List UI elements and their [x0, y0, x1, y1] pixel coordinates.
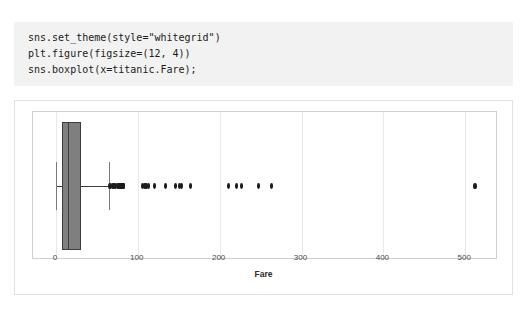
x-tick-label: 200	[212, 253, 225, 262]
plot-output-card: 0100200300400500 Fare	[14, 100, 513, 295]
code-line: plt.figure(figsize=(12, 4))	[28, 46, 513, 62]
outlier-point	[235, 183, 238, 188]
code-line: sns.boxplot(x=titanic.Fare);	[28, 62, 513, 78]
x-tick-label: 100	[130, 253, 143, 262]
x-tick-label: 0	[53, 253, 57, 262]
plot-axes	[32, 111, 497, 259]
boxplot-artists	[33, 112, 496, 258]
outlier-point	[153, 183, 156, 188]
outlier-point	[164, 183, 167, 188]
outlier-point	[180, 183, 183, 188]
outlier-point	[189, 183, 192, 188]
outlier-point	[174, 183, 177, 188]
x-axis-title: Fare	[255, 269, 273, 279]
outlier-point	[257, 183, 260, 188]
code-line: sns.set_theme(style="whitegrid")	[28, 30, 513, 46]
outlier-point	[473, 183, 476, 188]
outlier-point	[122, 183, 125, 188]
outlier-point	[227, 183, 230, 188]
matplotlib-figure: 0100200300400500 Fare	[15, 101, 512, 294]
box-iqr	[62, 122, 81, 250]
outlier-point	[147, 183, 150, 188]
whisker-high	[81, 186, 109, 187]
x-tick-label: 300	[294, 253, 307, 262]
median-line	[68, 122, 69, 250]
x-tick-label: 500	[458, 253, 471, 262]
x-tick-label: 400	[376, 253, 389, 262]
whisker-cap-low	[56, 162, 57, 210]
python-code-cell[interactable]: sns.set_theme(style="whitegrid") plt.fig…	[14, 22, 513, 86]
outlier-point	[270, 183, 273, 188]
outlier-point	[240, 183, 243, 188]
notebook-cell-screenshot: sns.set_theme(style="whitegrid") plt.fig…	[0, 0, 528, 315]
